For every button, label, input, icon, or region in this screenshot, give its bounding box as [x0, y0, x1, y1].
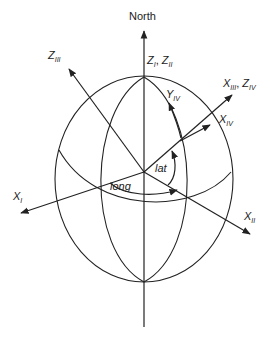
lat-arc: [168, 151, 175, 185]
x-ii-label: XII: [243, 210, 255, 224]
north-label: North: [129, 10, 156, 22]
z-iii-label: ZIII: [47, 49, 61, 63]
y-iv-label: YIV: [166, 88, 181, 102]
x-iv-label: XIV: [218, 113, 234, 127]
x-iii-z-iv-axis: [144, 95, 232, 172]
x-i-label: XI: [12, 190, 22, 204]
y-iv-axis: [169, 103, 181, 138]
long-label: long: [110, 180, 132, 192]
x-ii-axis: [144, 172, 250, 234]
z-i-z-ii-label: ZI, ZII: [146, 54, 172, 68]
coordinate-frames-diagram: North ZI, ZII ZIII XIII, ZIV XIV YIV XI …: [0, 0, 270, 342]
x-iii-z-iv-label: XIII, ZIV: [222, 77, 257, 91]
lat-label: lat: [155, 162, 168, 174]
z-iii-axis: [69, 69, 144, 172]
meridian-right: [144, 77, 187, 282]
